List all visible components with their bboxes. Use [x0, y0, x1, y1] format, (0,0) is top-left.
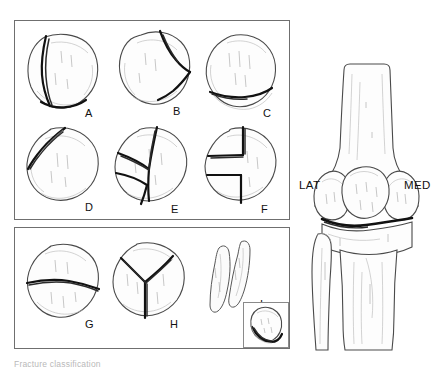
figure-caption: Fracture classification: [14, 359, 101, 368]
fracture-label-c: C: [263, 107, 271, 119]
fracture-pattern-g: [21, 240, 107, 328]
axial-patella-view-inset: [243, 302, 289, 348]
fracture-label-h: H: [170, 318, 178, 330]
patella-fracture-figure: A B: [0, 0, 439, 368]
fracture-label-e: E: [171, 203, 179, 215]
fracture-pattern-d: [21, 123, 107, 211]
fracture-label-d: D: [85, 201, 93, 213]
fracture-label-b: B: [173, 105, 181, 117]
fracture-pattern-f: [199, 123, 285, 211]
undisplaced-fractures-panel: A B: [14, 20, 290, 220]
fracture-pattern-a: [21, 29, 107, 117]
fracture-pattern-c: [199, 29, 285, 117]
fracture-pattern-e: [109, 123, 195, 211]
fracture-pattern-h: [107, 238, 193, 326]
fracture-label-f: F: [261, 203, 268, 215]
lateral-side-label: LAT: [299, 179, 320, 191]
medial-side-label: MED: [404, 179, 431, 191]
fracture-label-g: G: [85, 318, 94, 330]
fracture-label-a: A: [85, 107, 93, 119]
fracture-pattern-b: [111, 25, 197, 113]
